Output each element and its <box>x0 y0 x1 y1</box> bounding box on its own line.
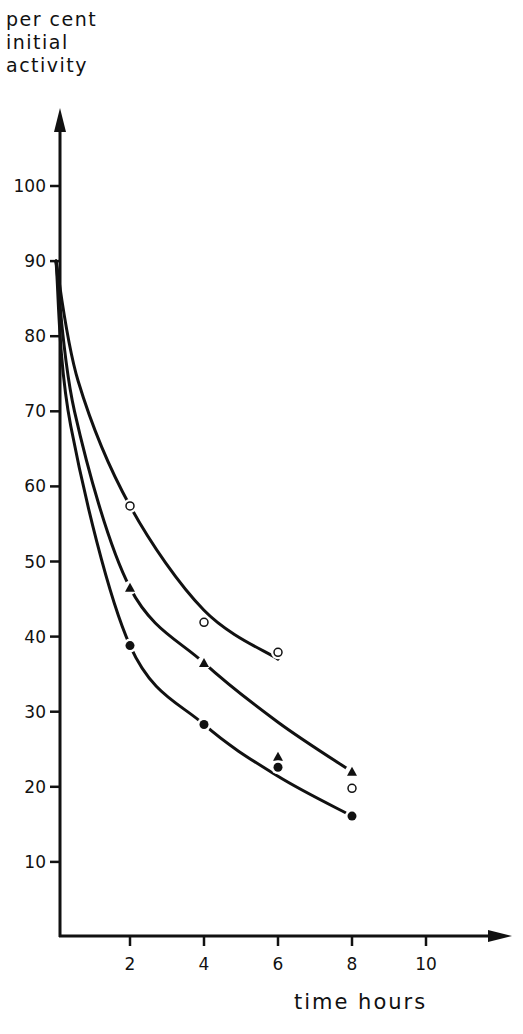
y-tick-label: 100 <box>14 176 46 196</box>
filled-circle-marker-icon <box>126 641 135 650</box>
y-tick-label: 60 <box>24 476 46 496</box>
x-tick-label: 10 <box>415 954 437 974</box>
y-tick-label: 50 <box>24 552 46 572</box>
open-circle-marker-icon <box>200 618 208 626</box>
y-tick-label: 70 <box>24 401 46 421</box>
y-tick-label: 80 <box>24 326 46 346</box>
filled-circle-marker-icon <box>274 763 283 772</box>
axes: 102030405060708090100246810 <box>14 108 512 974</box>
x-tick-label: 6 <box>273 954 284 974</box>
curves <box>56 261 352 816</box>
curve-triangles <box>56 261 352 772</box>
y-tick-label: 40 <box>24 627 46 647</box>
x-tick-label: 2 <box>125 954 136 974</box>
filled-circle-marker-icon <box>348 812 357 821</box>
open-circle-marker-icon <box>126 502 134 510</box>
open-circle-marker-icon <box>274 648 282 656</box>
x-tick-label: 8 <box>347 954 358 974</box>
y-tick-label: 10 <box>24 852 46 872</box>
y-axis-arrow-icon <box>54 108 66 132</box>
data-markers <box>123 499 359 823</box>
plot-area: 102030405060708090100246810 <box>0 0 523 1034</box>
y-tick-label: 30 <box>24 702 46 722</box>
y-tick-label: 20 <box>24 777 46 797</box>
y-tick-label: 90 <box>24 251 46 271</box>
open-circle-marker-icon <box>348 784 356 792</box>
x-axis-label: time hours <box>294 990 427 1014</box>
curve-open-circles <box>56 261 278 659</box>
curve-filled-circles <box>56 261 352 816</box>
filled-circle-marker-icon <box>200 720 209 729</box>
x-axis-arrow-icon <box>488 930 512 942</box>
x-tick-label: 4 <box>199 954 210 974</box>
